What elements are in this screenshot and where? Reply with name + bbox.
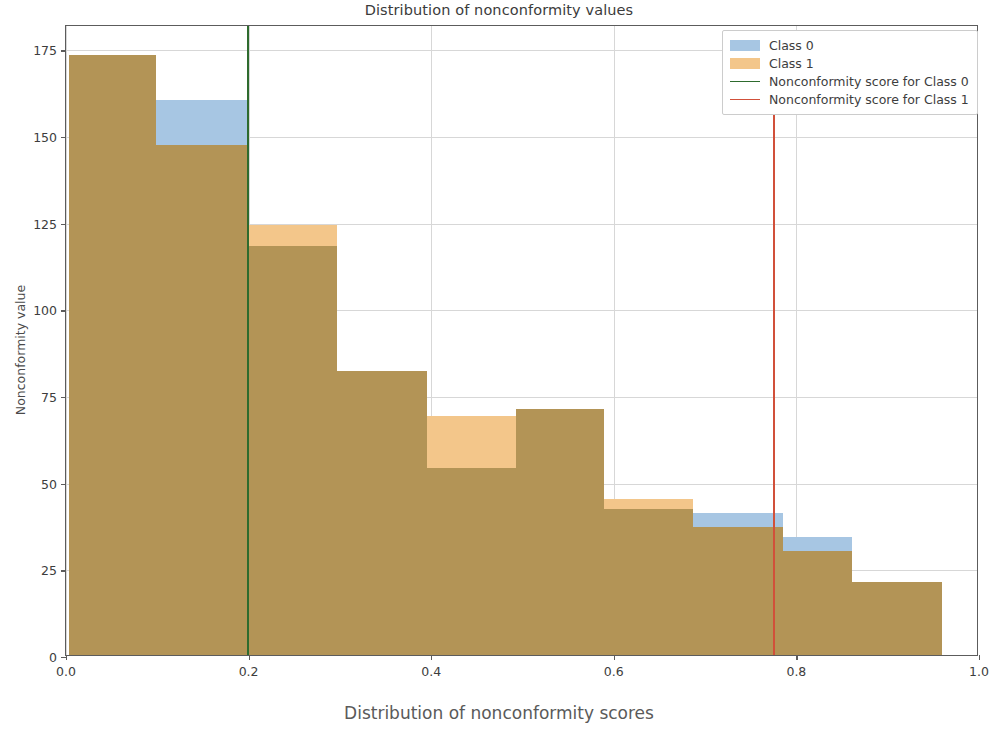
- chart-title: Distribution of nonconformity values: [0, 2, 998, 18]
- y-tick-label: 150: [33, 129, 57, 144]
- legend-swatch: [730, 40, 760, 51]
- x-tick-label: 0.2: [239, 664, 259, 679]
- legend-label: Class 1: [769, 56, 814, 71]
- y-tick-mark: [61, 137, 66, 138]
- y-tick-mark: [61, 397, 66, 398]
- y-tick-label: 100: [33, 303, 57, 318]
- y-tick-mark: [61, 484, 66, 485]
- legend-item: Class 0: [730, 36, 970, 54]
- histogram-bar: [783, 551, 852, 655]
- threshold-line: [247, 26, 249, 655]
- legend-label: Nonconformity score for Class 0: [769, 74, 969, 89]
- legend-label: Nonconformity score for Class 1: [769, 92, 969, 107]
- histogram-bar: [604, 509, 693, 655]
- y-tick-label: 75: [41, 389, 57, 404]
- threshold-line: [773, 113, 775, 655]
- x-tick-mark: [979, 655, 980, 660]
- x-tick-label: 0.8: [786, 664, 806, 679]
- histogram-bar: [427, 468, 516, 655]
- y-tick-label: 125: [33, 216, 57, 231]
- histogram-bar: [693, 527, 782, 655]
- legend-line: [730, 81, 760, 82]
- x-tick-mark: [249, 655, 250, 660]
- legend-item: Nonconformity score for Class 1: [730, 90, 970, 108]
- histogram-bar: [783, 537, 852, 551]
- histogram-bar: [156, 100, 247, 145]
- x-tick-mark: [431, 655, 432, 660]
- legend-label: Class 0: [769, 38, 814, 53]
- legend-item: Class 1: [730, 54, 970, 72]
- plot-area: 0255075100125150175 0.00.20.40.60.81.0: [65, 25, 978, 656]
- legend: Class 0Class 1Nonconformity score for Cl…: [722, 30, 978, 115]
- x-tick-label: 0.0: [56, 664, 76, 679]
- x-tick-mark: [614, 655, 615, 660]
- figure: Distribution of nonconformity values Non…: [0, 0, 998, 731]
- histogram-bar: [604, 499, 693, 509]
- legend-item: Nonconformity score for Class 0: [730, 72, 970, 90]
- y-tick-mark: [61, 310, 66, 311]
- x-axis-label: Distribution of nonconformity scores: [0, 703, 998, 723]
- histogram-bar: [248, 225, 337, 246]
- histogram-bar: [69, 55, 157, 655]
- histogram-bar: [156, 145, 247, 655]
- y-tick-mark: [61, 224, 66, 225]
- x-tick-mark: [66, 655, 67, 660]
- legend-swatch: [730, 58, 760, 69]
- x-tick-mark: [796, 655, 797, 660]
- histogram-bar: [693, 513, 782, 527]
- y-tick-label: 25: [41, 563, 57, 578]
- gridline-vertical: [66, 26, 67, 655]
- y-tick-label: 0: [49, 650, 57, 665]
- y-tick-label: 50: [41, 476, 57, 491]
- histogram-bar: [337, 371, 426, 655]
- histogram-bar: [852, 582, 942, 655]
- plot-inner: [66, 26, 977, 655]
- x-tick-label: 0.6: [604, 664, 624, 679]
- y-axis-label: Nonconformity value: [13, 250, 28, 450]
- x-tick-label: 1.0: [969, 664, 989, 679]
- y-tick-label: 175: [33, 43, 57, 58]
- y-tick-mark: [61, 50, 66, 51]
- y-tick-mark: [61, 570, 66, 571]
- legend-line: [730, 99, 760, 100]
- histogram-bar: [427, 416, 516, 468]
- histogram-bar: [516, 409, 604, 655]
- x-tick-label: 0.4: [421, 664, 441, 679]
- histogram-bar: [248, 246, 337, 655]
